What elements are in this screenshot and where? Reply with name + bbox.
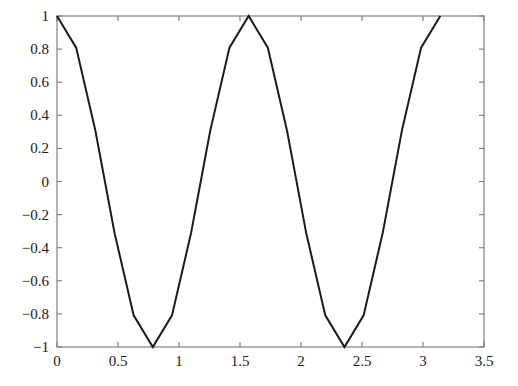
x-tick-label-5: 2.5 — [353, 353, 372, 369]
x-tick-label-1: 0.5 — [109, 353, 128, 369]
y-tick-label-0: −1 — [33, 339, 49, 355]
y-tick-label-5: 0 — [42, 174, 50, 190]
y-tick-label-10: 1 — [42, 8, 50, 24]
line-chart: 00.511.522.533.5−1−0.8−0.6−0.4−0.200.20.… — [0, 0, 518, 386]
y-tick-label-7: 0.4 — [30, 107, 49, 123]
y-tick-label-4: −0.2 — [22, 207, 49, 223]
figure-canvas: 00.511.522.533.5−1−0.8−0.6−0.4−0.200.20.… — [0, 0, 518, 386]
y-tick-label-8: 0.6 — [30, 74, 49, 90]
x-tick-label-2: 1 — [175, 353, 183, 369]
y-tick-label-6: 0.2 — [30, 140, 49, 156]
y-tick-label-9: 0.8 — [30, 41, 49, 57]
x-tick-label-6: 3 — [419, 353, 427, 369]
x-tick-label-4: 2 — [297, 353, 305, 369]
y-tick-label-1: −0.8 — [22, 306, 49, 322]
x-tick-label-0: 0 — [53, 353, 61, 369]
y-tick-label-3: −0.4 — [22, 240, 50, 256]
x-tick-label-7: 3.5 — [475, 353, 494, 369]
y-tick-label-2: −0.6 — [22, 273, 50, 289]
x-tick-label-3: 1.5 — [231, 353, 250, 369]
